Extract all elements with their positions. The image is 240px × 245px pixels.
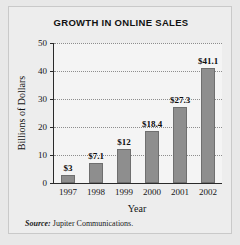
bar <box>89 163 103 183</box>
y-axis-tick-label: 10 <box>38 150 47 160</box>
y-axis-tick <box>50 183 54 184</box>
bar <box>173 107 187 183</box>
chart-title: GROWTH IN ONLINE SALES <box>9 17 233 28</box>
x-axis-tick-label: 2001 <box>171 187 189 197</box>
bar-value-label: $7.1 <box>88 151 104 161</box>
x-axis-tick-label: 1998 <box>87 187 105 197</box>
source-note: Source: Jupiter Communications. <box>25 219 133 228</box>
x-axis-tick-label: 1997 <box>59 187 77 197</box>
y-axis-tick <box>50 99 54 100</box>
y-axis-tick-label: 30 <box>38 94 47 104</box>
bar <box>61 175 75 183</box>
bar-value-label: $27.3 <box>170 95 190 105</box>
gridline <box>54 99 222 100</box>
plot-area: 01020304050$31997$7.11998$121999$18.4200… <box>53 43 222 184</box>
x-axis-tick-label: 1999 <box>115 187 133 197</box>
y-axis-tick <box>50 71 54 72</box>
bar-value-label: $41.1 <box>198 56 218 66</box>
gridline <box>54 155 222 156</box>
x-axis-title: Year <box>53 203 221 214</box>
source-text: Jupiter Communications. <box>53 219 133 228</box>
chart-figure: GROWTH IN ONLINE SALES Billions of Dolla… <box>0 0 240 245</box>
y-axis-tick <box>50 155 54 156</box>
source-label: Source: <box>25 219 51 228</box>
bar-value-label: $12 <box>117 137 131 147</box>
chart-panel: GROWTH IN ONLINE SALES Billions of Dolla… <box>8 6 232 234</box>
gridline <box>54 127 222 128</box>
bar <box>201 68 215 183</box>
x-axis-tick-label: 2000 <box>143 187 161 197</box>
bar-value-label: $3 <box>64 163 73 173</box>
y-axis-tick-label: 50 <box>38 38 47 48</box>
y-axis-tick-label: 0 <box>43 178 48 188</box>
x-axis-tick-label: 2002 <box>199 187 217 197</box>
gridline <box>54 43 222 44</box>
y-axis-tick-label: 20 <box>38 122 47 132</box>
y-axis-tick-label: 40 <box>38 66 47 76</box>
y-axis-title: Billions of Dollars <box>16 43 30 183</box>
bar <box>145 131 159 183</box>
y-axis-tick <box>50 43 54 44</box>
gridline <box>54 71 222 72</box>
y-axis-tick <box>50 127 54 128</box>
bar-value-label: $18.4 <box>142 119 162 129</box>
bar <box>117 149 131 183</box>
